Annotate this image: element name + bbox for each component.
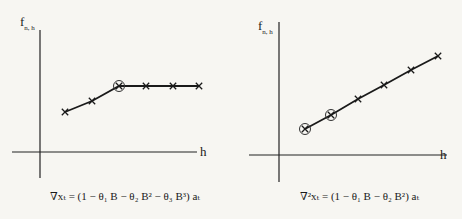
left-caption: ∇xₜ = (1 − θ₁ B − θ₂ B² − θ₃ B³) aₜ bbox=[50, 190, 200, 203]
x-marker-icon bbox=[302, 126, 308, 132]
x-marker-icon bbox=[435, 53, 441, 59]
left-y-axis-label: fn, h bbox=[20, 14, 35, 32]
x-marker-icon bbox=[381, 82, 387, 88]
x-marker-icon bbox=[355, 96, 361, 102]
right-y-axis-label: fn, h bbox=[258, 18, 273, 36]
right-caption: ∇²xₜ = (1 − θ₁ B − θ₂ B²) aₜ bbox=[300, 190, 419, 203]
x-marker-icon bbox=[408, 67, 414, 73]
right-x-axis-label: h bbox=[440, 147, 447, 163]
x-marker-icon bbox=[328, 112, 334, 118]
left-x-axis-label: h bbox=[200, 144, 207, 160]
right-series-line bbox=[305, 56, 438, 129]
chart-canvas bbox=[0, 0, 462, 219]
left-series-line bbox=[65, 86, 199, 112]
